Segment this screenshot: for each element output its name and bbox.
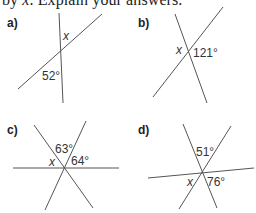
angle-d-2: 76° bbox=[207, 175, 225, 189]
diagram-c: c) 63° x 64° bbox=[7, 121, 119, 210]
line-a1 bbox=[59, 13, 63, 103]
diagram-d: d) 51° x 76° bbox=[138, 123, 254, 209]
problem-label-b: b) bbox=[138, 16, 149, 30]
line-d3 bbox=[179, 126, 231, 209]
angle-diagrams: a) x 52° b) x 121° c) 63° x 64° d) 51° x… bbox=[0, 0, 256, 213]
unknown-x-a: x bbox=[62, 29, 70, 43]
diagram-b: b) x 121° bbox=[138, 7, 223, 103]
problem-label-a: a) bbox=[7, 16, 18, 30]
problem-label-d: d) bbox=[138, 123, 149, 137]
angle-c-2: 64° bbox=[71, 154, 89, 168]
problem-label-c: c) bbox=[7, 123, 18, 137]
angle-a-1: 52° bbox=[42, 69, 60, 83]
unknown-x-b: x bbox=[175, 43, 183, 57]
unknown-x-d: x bbox=[186, 175, 194, 189]
angle-b-1: 121° bbox=[193, 46, 218, 60]
diagram-a: a) x 52° bbox=[7, 13, 102, 103]
unknown-x-c: x bbox=[48, 155, 56, 169]
angle-d-1: 51° bbox=[196, 145, 214, 159]
